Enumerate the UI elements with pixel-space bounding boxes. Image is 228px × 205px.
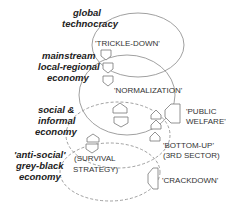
global-label: global technocracy [62,7,119,29]
mainstream-label: mainstream local-regional economy [38,50,100,83]
antisocial-label-line-2: grey-black [15,160,64,171]
down-arrow-icon [103,76,113,86]
mainstream-label-line-3: economy [47,72,89,83]
social-label-line-3: economy [35,126,77,137]
antisocial-label-line-1: 'anti-social' [14,149,66,160]
public-welfare-line-1: 'PUBLIC [186,107,217,116]
mainstream-label-line-1: mainstream [42,50,96,61]
global-label-line-2: technocracy [62,18,119,29]
up-arrow-icon [113,103,127,113]
bottom-up-line-2: (3RD SECTOR) [163,151,220,160]
left-arrow-icon [165,104,180,123]
public-welfare-line-2: WELFARE' [186,117,226,126]
trickle-down-text: 'TRICKLE-DOWN' [95,39,160,48]
normalization-text: 'NORMALIZATION' [114,86,183,95]
up-arrow-icon [151,110,161,119]
down-arrow-icon [86,144,98,153]
bottom-up-line-1: 'BOTTOM-UP' [163,141,214,150]
social-label-line-2: informal [38,115,76,126]
social-label: social & informal economy [35,104,77,137]
survival-text-line-1: (SURVIVAL [74,154,116,163]
down-arrow-icon [101,50,111,60]
crackdown-text: 'CRACKDOWN' [162,176,219,185]
economy-levels-diagram: global technocracy mainstream local-regi… [0,0,228,205]
global-label-line-1: global [72,7,101,18]
up-arrow-icon [150,132,160,141]
mainstream-label-line-2: local-regional [38,61,100,72]
up-arrow-icon [87,134,99,142]
social-label-line-1: social & [38,104,75,115]
down-arrow-icon [114,117,128,127]
antisocial-label: 'anti-social' grey-black economy [14,149,66,182]
antisocial-label-line-3: economy [19,171,61,182]
up-arrow-icon [151,120,161,129]
survival-text-line-2: STRATEGY) [73,165,119,174]
left-arrow-icon [148,168,158,189]
